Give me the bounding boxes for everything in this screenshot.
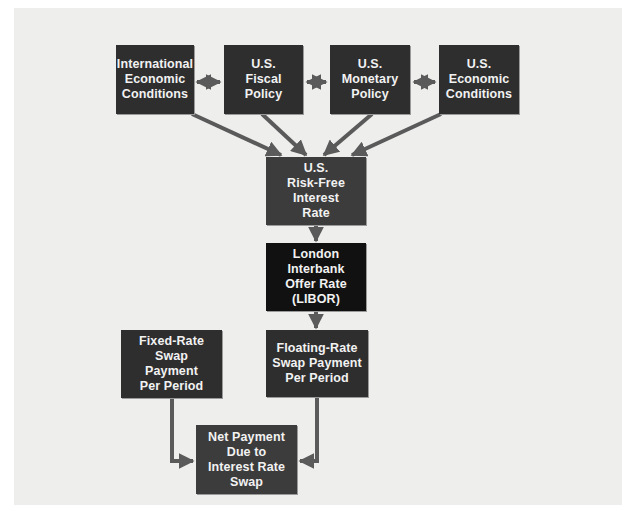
node-label: U.S. Economic Conditions — [446, 57, 512, 102]
node-label: London Interbank Offer Rate (LIBOR) — [270, 247, 362, 307]
node-label: International Economic Conditions — [117, 57, 193, 102]
node-us-fiscal-policy: U.S. Fiscal Policy — [224, 45, 303, 114]
node-label: Floating-Rate Swap Payment Per Period — [272, 341, 361, 386]
arrow-fixed-net — [172, 398, 193, 461]
arrow-floating-net — [300, 397, 317, 461]
node-fixed-rate-swap-payment: Fixed-Rate Swap Payment Per Period — [121, 330, 222, 398]
node-international-economic-conditions: International Economic Conditions — [116, 45, 194, 114]
node-us-economic-conditions: U.S. Economic Conditions — [439, 45, 519, 114]
node-us-monetary-policy: U.S. Monetary Policy — [330, 45, 410, 114]
node-label: Fixed-Rate Swap Payment Per Period — [139, 334, 204, 394]
node-label: U.S. Risk-Free Interest Rate — [287, 161, 345, 221]
node-us-risk-free-interest-rate: U.S. Risk-Free Interest Rate — [266, 157, 366, 225]
node-label: Net Payment Due to Interest Rate Swap — [208, 430, 285, 490]
node-libor: London Interbank Offer Rate (LIBOR) — [266, 243, 366, 311]
node-net-payment: Net Payment Due to Interest Rate Swap — [196, 425, 297, 494]
node-floating-rate-swap-payment: Floating-Rate Swap Payment Per Period — [266, 330, 368, 397]
node-label: U.S. Monetary Policy — [342, 57, 398, 102]
node-label: U.S. Fiscal Policy — [245, 57, 282, 102]
